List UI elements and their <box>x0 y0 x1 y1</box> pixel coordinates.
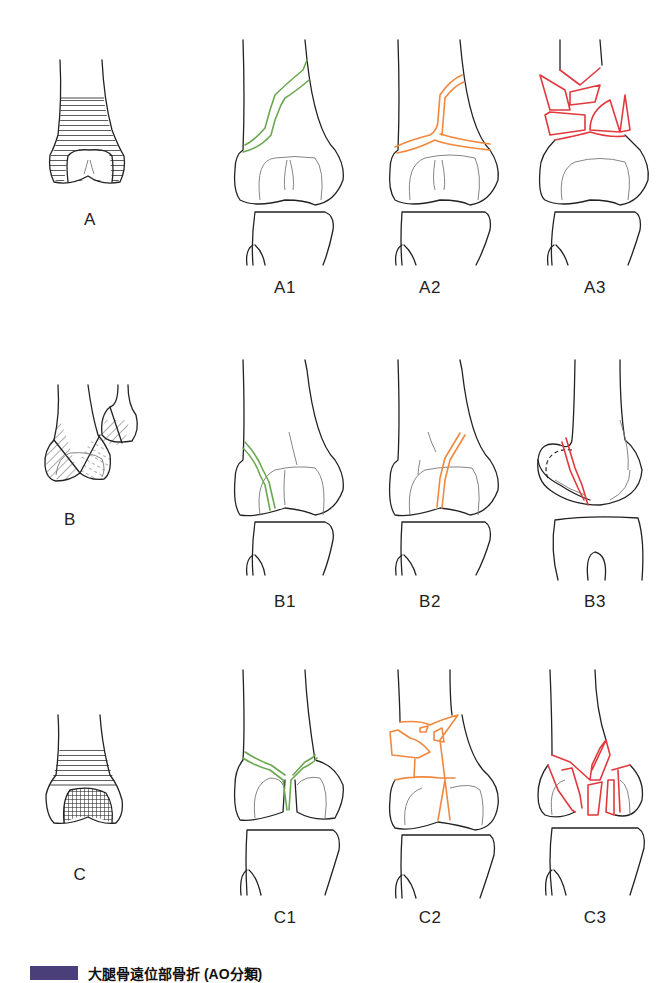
caption-text: 大腿骨遠位部骨折 (AO分類) <box>88 963 262 983</box>
subtype-label: A1 <box>255 278 315 298</box>
subtype-c3-diagram: C3 <box>530 670 660 900</box>
overview-a-diagram: A <box>40 60 140 190</box>
figure-caption: 大腿骨遠位部骨折 (AO分類) <box>30 963 668 977</box>
subtype-label: C2 <box>400 908 460 928</box>
caption-badge <box>30 966 78 980</box>
overview-b-diagram: B <box>40 385 160 545</box>
subtype-b2-diagram: B2 <box>380 360 510 590</box>
subtype-b1-diagram: B1 <box>225 360 355 590</box>
subtype-a1-diagram: A1 <box>225 40 355 270</box>
overview-label: A <box>60 210 120 230</box>
subtype-label: A3 <box>565 278 625 298</box>
overview-label: C <box>50 865 110 885</box>
subtype-a3-diagram: A3 <box>530 40 660 270</box>
subtype-a2-diagram: A2 <box>380 40 510 270</box>
subtype-label: C3 <box>565 908 625 928</box>
subtype-b3-diagram: B3 <box>530 360 660 590</box>
subtype-label: A2 <box>400 278 460 298</box>
subtype-c1-diagram: C1 <box>225 670 355 900</box>
subtype-label: B1 <box>255 592 315 612</box>
overview-label: B <box>40 510 100 530</box>
overview-c-diagram: C <box>40 715 140 875</box>
subtype-c2-diagram: C2 <box>380 670 510 900</box>
subtype-label: B3 <box>565 592 625 612</box>
subtype-label: C1 <box>255 908 315 928</box>
subtype-label: B2 <box>400 592 460 612</box>
